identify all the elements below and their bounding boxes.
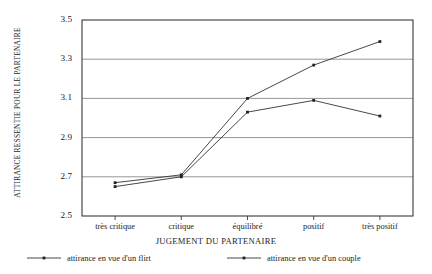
line-chart-figure: ATTIRANCE RESSENTIE POUR LE PARTENAIRE 2… (0, 0, 432, 274)
y-tick-label: 3.1 (46, 93, 72, 102)
x-axis-tick-labels: très critiquecritiqueéquilibrépositiftrè… (82, 222, 413, 236)
data-point (379, 40, 382, 43)
y-tick-label: 2.7 (46, 172, 72, 181)
data-point (246, 111, 249, 114)
plot-svg (82, 20, 413, 216)
legend-item-couple: attirance en vue d'un couple (226, 251, 361, 265)
data-point (379, 115, 382, 118)
plot-frame (82, 20, 413, 216)
legend-line-marker-icon (226, 252, 262, 264)
y-tick-label: 2.5 (46, 211, 72, 220)
data-point (312, 99, 315, 102)
x-tick-label: très critique (95, 222, 135, 231)
legend-line-marker-icon (26, 252, 62, 264)
data-point (180, 175, 183, 178)
data-point (114, 181, 117, 184)
y-tick-label: 2.9 (46, 133, 72, 142)
plot-area (82, 20, 413, 216)
y-tick-label: 3.5 (46, 15, 72, 24)
chart-legend: attirance en vue d'un flirt attirance en… (0, 251, 432, 267)
y-axis-tick-labels: 2.52.72.93.13.33.5 (46, 0, 72, 274)
legend-label-flirt: attirance en vue d'un flirt (67, 254, 151, 263)
x-tick-label: critique (169, 222, 195, 231)
legend-item-flirt: attirance en vue d'un flirt (26, 251, 151, 265)
data-point (114, 185, 117, 188)
x-tick-label: très positif (362, 222, 398, 231)
x-tick-label: positif (303, 222, 324, 231)
data-point (246, 97, 249, 100)
x-axis-title: JUGEMENT DU PARTENAIRE (0, 236, 432, 246)
legend-label-couple: attirance en vue d'un couple (267, 254, 361, 263)
y-axis-title: ATTIRANCE RESSENTIE POUR LE PARTENAIRE (13, 5, 22, 220)
y-tick-label: 3.3 (46, 54, 72, 63)
data-point (312, 64, 315, 67)
x-tick-label: équilibré (233, 222, 263, 231)
